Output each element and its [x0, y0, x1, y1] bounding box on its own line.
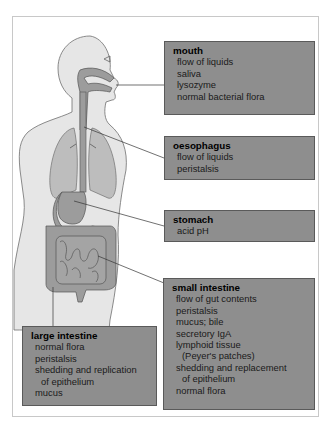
label-item: normal flora	[31, 341, 150, 352]
label-box-oesophagus: oesophagus flow of liquids peristalsis	[164, 136, 315, 180]
label-title: mouth	[173, 45, 308, 56]
label-item: lysozyme	[173, 79, 308, 90]
label-item: saliva	[173, 68, 308, 79]
label-item: shedding and replication	[31, 364, 150, 375]
label-box-mouth: mouth flow of liquids saliva lysozyme no…	[164, 41, 315, 115]
label-item: secretory IgA	[172, 328, 308, 339]
label-item: lymphoid tissue	[172, 339, 308, 350]
label-item: flow of gut contents	[172, 293, 308, 304]
label-item: normal flora	[172, 385, 308, 396]
label-item: of epithelium	[31, 376, 150, 387]
label-item: mucus; bile	[172, 316, 308, 327]
label-item: shedding and replacement	[172, 362, 308, 373]
label-title: oesophagus	[173, 140, 308, 151]
label-title: large intestine	[31, 330, 150, 341]
label-item: peristalsis	[172, 305, 308, 316]
label-item: flow of liquids	[173, 56, 308, 67]
label-box-small-intestine: small intestine flow of gut contents per…	[163, 278, 315, 410]
label-item: (Peyer's patches)	[172, 350, 308, 361]
label-box-large-intestine: large intestine normal flora peristalsis…	[22, 326, 157, 406]
label-item: of epithelium	[172, 373, 308, 384]
label-box-stomach: stomach acid pH	[164, 210, 315, 242]
label-item: mucus	[31, 387, 150, 398]
label-title: stomach	[173, 214, 308, 225]
label-item: normal bacterial flora	[173, 91, 308, 102]
label-item: peristalsis	[31, 353, 150, 364]
label-item: flow of liquids	[173, 151, 308, 162]
label-item: peristalsis	[173, 163, 308, 174]
label-item: acid pH	[173, 225, 308, 236]
oesophagus-tube	[80, 92, 86, 192]
label-title: small intestine	[172, 282, 308, 293]
stomach-body	[58, 192, 86, 224]
